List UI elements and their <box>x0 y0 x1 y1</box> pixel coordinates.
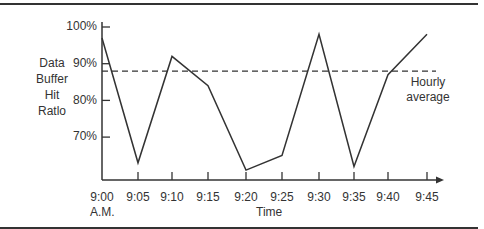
x-axis-label: Time <box>256 205 282 219</box>
y-tick-label: 100% <box>57 19 97 33</box>
x-tick-label: 9:25 <box>262 190 302 204</box>
annotation-line: Hourly <box>400 75 456 90</box>
y-tick-label: 80% <box>57 93 97 107</box>
y-tick-label: 90% <box>57 56 97 70</box>
x-tick-label: 9:20 <box>226 190 266 204</box>
bottom-rule <box>0 227 478 229</box>
data-series-line <box>102 34 427 170</box>
x-tick-label: 9:15 <box>188 190 228 204</box>
x-tick-label: 9:40 <box>368 190 408 204</box>
x-tick-label: 9:00 <box>82 190 122 204</box>
x-tick-sublabel-am: A.M. <box>90 205 115 219</box>
annotation-line: average <box>400 90 456 105</box>
y-tick-label: 70% <box>57 129 97 143</box>
hourly-average-annotation: Hourly average <box>400 75 456 105</box>
y-axis-label-line: Buffer <box>26 71 78 87</box>
x-tick-label: 9:45 <box>407 190 447 204</box>
x-tick-label: 9:10 <box>152 190 192 204</box>
x-tick-label: 9:30 <box>299 190 339 204</box>
